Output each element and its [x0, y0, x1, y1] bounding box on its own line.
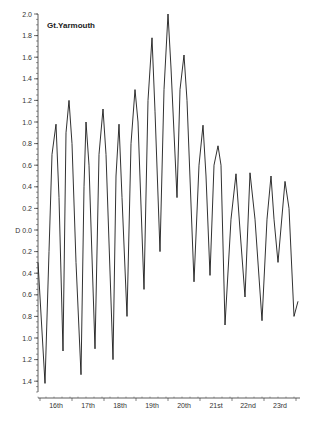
y-tick-label: 1.2	[22, 97, 32, 104]
x-tick-label: 16th	[49, 402, 63, 409]
y-tick-label: 0.8	[22, 313, 32, 320]
y-tick-label: 1.0	[22, 119, 32, 126]
y-tick-label: 1.4	[22, 378, 32, 385]
tide-chart: Gt.Yarmouth 2.01.81.61.41.21.00.80.60.40…	[0, 0, 313, 424]
x-tick-label: 19th	[145, 402, 159, 409]
y-tick-label: 0.6	[22, 162, 32, 169]
x-tick-label: 18th	[113, 402, 127, 409]
x-tick-label: 22nd	[240, 402, 256, 409]
y-tick-label: 0.6	[22, 291, 32, 298]
y-tick-label: 0.4	[22, 270, 32, 277]
y-tick-label: 0.2	[22, 205, 32, 212]
y-tick-label: 2.0	[22, 11, 32, 18]
y-tick-label: 1.8	[22, 32, 32, 39]
x-tick-label: 21st	[209, 402, 222, 409]
y-tick-label: 1.6	[22, 54, 32, 61]
x-tick-label: 17th	[81, 402, 95, 409]
x-tick-label: 20th	[177, 402, 191, 409]
y-tick-label: 1.2	[22, 356, 32, 363]
y-datum-label: D 0.0	[15, 227, 32, 234]
chart-title: Gt.Yarmouth	[47, 21, 95, 30]
y-axis: 2.01.81.61.41.21.00.80.60.40.2D 0.00.20.…	[15, 11, 38, 393]
y-tick-label: 1.4	[22, 75, 32, 82]
x-axis: 16th17th18th19th20th21st22nd23rd	[38, 397, 300, 410]
y-tick-label: 0.2	[22, 248, 32, 255]
water-level-line	[38, 14, 298, 383]
y-tick-label: 1.0	[22, 335, 32, 342]
y-tick-label: 0.8	[22, 140, 32, 147]
x-tick-label: 23rd	[273, 402, 287, 409]
y-tick-label: 0.4	[22, 183, 32, 190]
